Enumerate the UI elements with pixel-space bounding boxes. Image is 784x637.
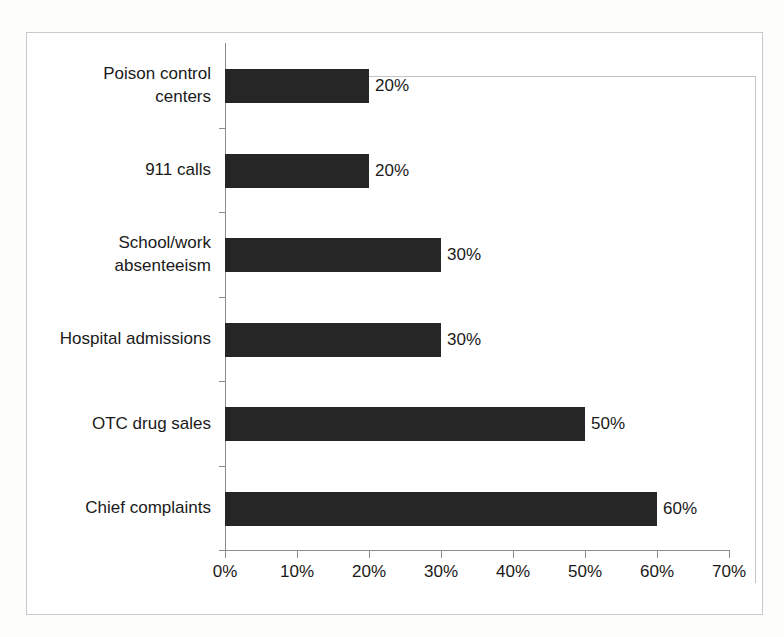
category-label: Hospital admissions — [1, 327, 211, 350]
bar-row: 50% — [225, 381, 729, 466]
category-label: Chief complaints — [1, 496, 211, 519]
bar-row: 30% — [225, 212, 729, 297]
x-axis-tick — [585, 551, 586, 558]
bar — [225, 323, 441, 357]
bar-value-label: 60% — [657, 492, 697, 526]
y-axis-tick — [219, 466, 225, 467]
y-axis-tick — [219, 212, 225, 213]
bar-row: 20% — [225, 128, 729, 213]
bar-row: 20% — [225, 43, 729, 128]
x-axis-line — [225, 550, 730, 551]
bar — [225, 238, 441, 272]
bar-row: 60% — [225, 466, 729, 551]
category-label: 911 calls — [1, 158, 211, 181]
x-axis-tick-label: 60% — [640, 562, 674, 582]
x-axis-tick-label: 20% — [352, 562, 386, 582]
x-axis-tick-label: 30% — [424, 562, 458, 582]
category-label: OTC drug sales — [1, 412, 211, 435]
x-axis-tick — [657, 551, 658, 558]
x-axis-tick — [369, 551, 370, 558]
y-axis-tick — [219, 297, 225, 298]
x-axis-tick-label: 10% — [280, 562, 314, 582]
bar-value-label: 50% — [585, 407, 625, 441]
category-label: School/work absenteeism — [1, 231, 211, 277]
x-axis-tick-label: 70% — [712, 562, 746, 582]
page-background: 20%20%30%30%50%60% Poison control center… — [0, 0, 784, 637]
bar-row: 30% — [225, 297, 729, 382]
x-axis-tick-label: 40% — [496, 562, 530, 582]
category-label: Poison control centers — [1, 62, 211, 108]
bar — [225, 69, 369, 103]
bar — [225, 407, 585, 441]
bar-value-label: 20% — [369, 69, 409, 103]
x-axis-tick — [729, 551, 730, 558]
x-axis-tick — [513, 551, 514, 558]
bar-value-label: 30% — [441, 323, 481, 357]
y-axis-tick — [219, 381, 225, 382]
bar — [225, 154, 369, 188]
bar-value-label: 20% — [369, 154, 409, 188]
bar — [225, 492, 657, 526]
x-axis-tick-label: 0% — [213, 562, 238, 582]
x-axis-tick — [297, 551, 298, 558]
x-axis-tick-label: 50% — [568, 562, 602, 582]
x-axis-tick — [441, 551, 442, 558]
x-axis-tick — [225, 551, 226, 558]
y-axis-tick — [219, 128, 225, 129]
bar-value-label: 30% — [441, 238, 481, 272]
